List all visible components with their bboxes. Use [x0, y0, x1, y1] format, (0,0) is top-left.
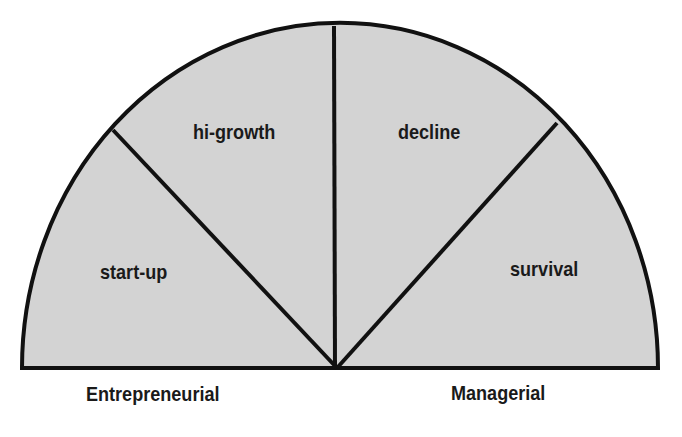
segment-label-hi-growth: hi-growth — [193, 120, 275, 144]
segment-label-survival: survival — [510, 257, 578, 281]
divider-higrowth-decline — [334, 26, 335, 368]
segment-label-decline: decline — [398, 120, 460, 144]
semicircle-shape — [22, 23, 658, 368]
axis-label-entrepreneurial: Entrepreneurial — [86, 382, 219, 406]
axis-label-managerial: Managerial — [451, 381, 545, 405]
semicircle-diagram — [0, 0, 682, 437]
segment-label-start-up: start-up — [100, 260, 167, 284]
